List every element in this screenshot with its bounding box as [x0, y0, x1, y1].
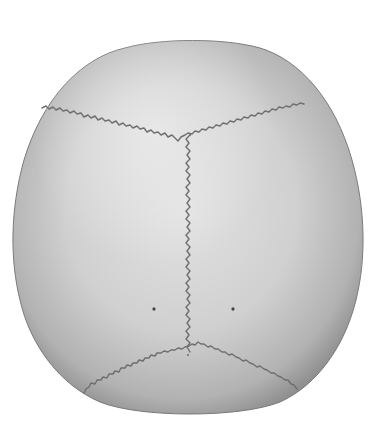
skull-superior-view [0, 0, 377, 423]
lambda [187, 354, 189, 356]
parietal-foramen-right [231, 307, 234, 311]
skull-illustration [0, 0, 377, 423]
bregma [189, 134, 191, 136]
parietal-foramen-left [152, 307, 155, 311]
